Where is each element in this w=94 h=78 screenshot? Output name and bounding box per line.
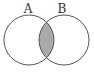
set-a-label: A — [23, 2, 33, 16]
set-b-label: B — [58, 2, 67, 16]
venn-diagram: A B — [0, 0, 94, 78]
